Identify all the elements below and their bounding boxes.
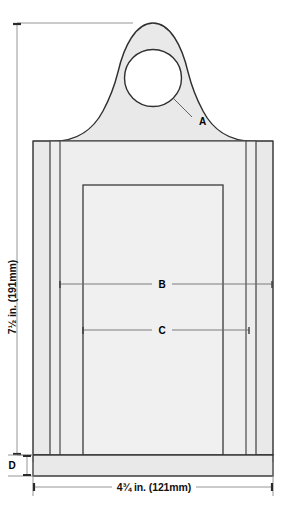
inner-recess-rect — [83, 185, 223, 455]
hanging-hole — [125, 50, 182, 107]
base-strip — [33, 455, 273, 476]
callout-a-label: A — [199, 116, 206, 127]
callout-d-group: D — [8, 455, 33, 476]
callout-c-label: C — [158, 325, 165, 336]
height-dimension-label: 7½ in. (191mm) — [6, 260, 18, 334]
technical-drawing: 7½ in. (191mm) 4¾ in. (121mm) A — [0, 0, 306, 517]
diagram-canvas: 7½ in. (191mm) 4¾ in. (121mm) A — [0, 0, 306, 517]
callout-b-label: B — [158, 279, 165, 290]
callout-d-label: D — [8, 460, 15, 471]
width-dimension-label: 4¾ in. (121mm) — [117, 481, 191, 493]
